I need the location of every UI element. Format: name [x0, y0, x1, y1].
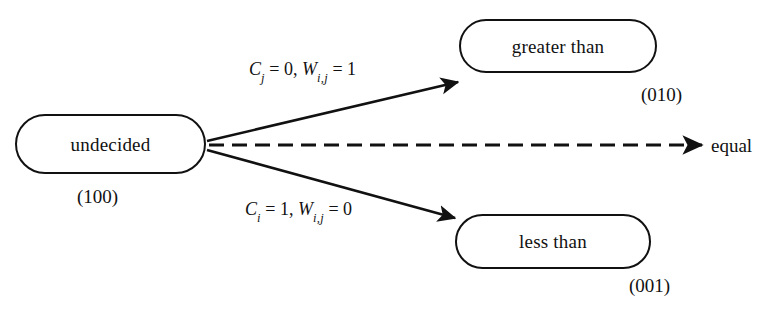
edge-label-bottom-comma: ,	[289, 199, 298, 219]
state-node-undecided[interactable]: undecided	[15, 114, 206, 174]
edge-label-bottom-val-1: 1	[280, 199, 289, 219]
state-node-undecided-label: undecided	[71, 135, 151, 154]
edge-label-bottom-val-2: 0	[343, 199, 352, 219]
state-node-less-than-label: less than	[519, 232, 587, 251]
edge-label-bottom-eq-1: =	[261, 199, 280, 219]
edge-label-top-eq-2: =	[328, 59, 347, 79]
edge-label-bottom-sub-2: i,j	[313, 211, 324, 225]
state-node-greater-than[interactable]: greater than	[459, 19, 657, 73]
state-node-greater-than-label: greater than	[512, 37, 605, 56]
edge-label-top-sub-2: i,j	[317, 71, 328, 85]
edge-label-top-val-1: 0	[284, 59, 293, 79]
state-code-less-than: (001)	[629, 276, 670, 295]
edge-label-top-val-2: 1	[347, 59, 356, 79]
edge-label-to-greater-than: Cj = 0, Wi,j = 1	[249, 60, 356, 82]
state-code-undecided: (100)	[77, 187, 118, 206]
edge-label-bottom-var-2: W	[298, 199, 313, 219]
edge-label-top-eq-1: =	[265, 59, 284, 79]
edge-label-bottom-var-1: C	[245, 199, 257, 219]
edge-label-top-sub-1: j	[261, 71, 265, 85]
edge-label-top-comma: ,	[293, 59, 302, 79]
edge-label-bottom-eq-2: =	[324, 199, 343, 219]
edge-label-top-var-1: C	[249, 59, 261, 79]
state-node-less-than[interactable]: less than	[455, 214, 651, 269]
edge-target-label-equal: equal	[711, 136, 752, 155]
edge-label-top-var-2: W	[302, 59, 317, 79]
edge-label-to-less-than: Ci = 1, Wi,j = 0	[245, 200, 352, 222]
edge-to-greater-than	[207, 82, 458, 141]
state-transition-diagram: undecided greater than less than (100) (…	[0, 0, 768, 310]
state-code-greater-than: (010)	[641, 85, 682, 104]
edge-label-bottom-sub-1: i	[257, 211, 261, 225]
